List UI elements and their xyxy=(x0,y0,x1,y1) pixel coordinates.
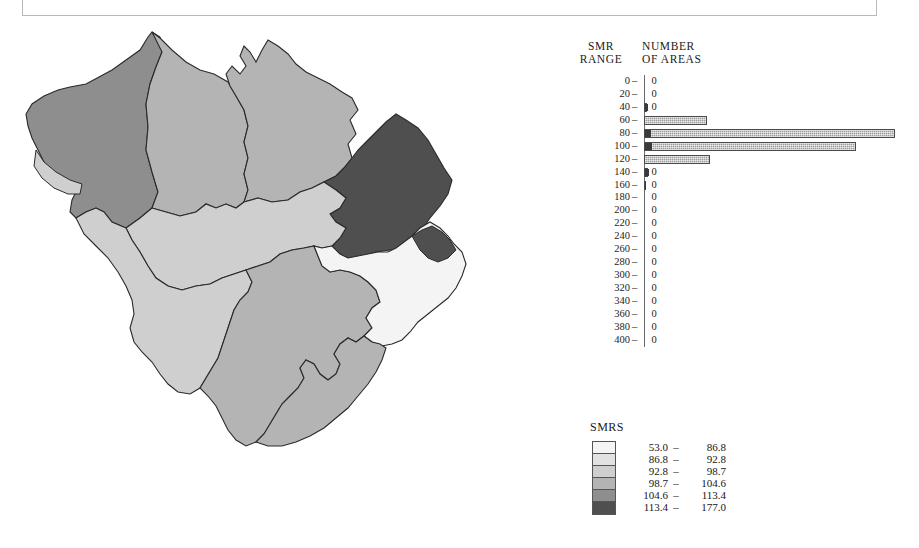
histogram-range-dash: – xyxy=(632,140,637,153)
histogram-bar-dark-segment xyxy=(645,169,649,176)
smrs-legend-swatch[interactable] xyxy=(593,442,615,454)
smrs-legend-row: 86.8–92.8 xyxy=(626,453,820,465)
histogram-bar[interactable] xyxy=(644,181,646,190)
histogram-title-smr: SMR xyxy=(560,40,642,53)
smrs-legend-separator: – xyxy=(668,465,684,477)
smrs-legend-row: 98.7–104.6 xyxy=(626,477,820,489)
histogram-row: 180–0 xyxy=(560,191,919,204)
histogram-range-dash: – xyxy=(632,243,637,256)
histogram-range-label: 180 xyxy=(560,191,630,204)
histogram-count-value: 0 xyxy=(646,308,662,321)
histogram-row: 0–0 xyxy=(560,75,919,88)
histogram-range-dash: – xyxy=(632,114,637,127)
histogram-count-value: 0 xyxy=(646,191,662,204)
histogram-range-label: 240 xyxy=(560,230,630,243)
histogram-range-label: 80 xyxy=(560,127,630,140)
histogram-row: 360–0 xyxy=(560,308,919,321)
histogram-range-dash: – xyxy=(632,217,637,230)
histogram-row: 20–0 xyxy=(560,88,919,101)
histogram-bar[interactable] xyxy=(644,142,856,151)
histogram-bar-fill-segment xyxy=(651,130,894,137)
histogram-row: 160–0 xyxy=(560,179,919,192)
histogram-range-dash: – xyxy=(632,191,637,204)
histogram-range-label: 140 xyxy=(560,166,630,179)
map-region-west-vlaanderen[interactable] xyxy=(26,32,162,228)
histogram-range-dash: – xyxy=(632,295,637,308)
histogram-range-label: 60 xyxy=(560,114,630,127)
smrs-legend-low: 104.6 xyxy=(626,489,668,501)
histogram-bar-fill-segment xyxy=(652,143,855,150)
histogram-bar[interactable] xyxy=(644,168,648,177)
histogram-row: 80–4 xyxy=(560,127,919,140)
histogram-range-dash: – xyxy=(632,127,637,140)
histogram-count-value: 0 xyxy=(646,88,662,101)
histogram-bar-fill-segment xyxy=(645,117,706,124)
histogram-range-dash: – xyxy=(632,204,637,217)
histogram-count-value: 0 xyxy=(646,282,662,295)
histogram-count-value: 0 xyxy=(646,269,662,282)
histogram-range-label: 300 xyxy=(560,269,630,282)
smrs-legend-low: 113.4 xyxy=(626,501,668,513)
histogram-range-label: 340 xyxy=(560,295,630,308)
smrs-legend-separator: – xyxy=(668,477,684,489)
histogram-row: 60–0 xyxy=(560,114,919,127)
histogram-bar[interactable] xyxy=(644,129,895,138)
histogram-range-dash: – xyxy=(632,101,637,114)
belgium-map xyxy=(0,22,545,452)
smrs-legend-swatch[interactable] xyxy=(593,478,615,490)
smrs-legend-separator: – xyxy=(668,453,684,465)
histogram-range-label: 0 xyxy=(560,75,630,88)
histogram-range-dash: – xyxy=(632,230,637,243)
histogram-count-value: 0 xyxy=(646,243,662,256)
histogram-row: 140–0 xyxy=(560,166,919,179)
histogram-row: 340–0 xyxy=(560,295,919,308)
smrs-legend-high: 177.0 xyxy=(684,501,726,513)
histogram-row: 240–0 xyxy=(560,230,919,243)
histogram-range-label: 20 xyxy=(560,88,630,101)
smrs-legend-low: 86.8 xyxy=(626,453,668,465)
map-region-oost-vlaanderen[interactable] xyxy=(146,32,248,216)
histogram-count-value: 0 xyxy=(646,101,662,114)
smrs-legend-low: 53.0 xyxy=(626,441,668,453)
histogram-axis-title-smr-range: SMR RANGE xyxy=(560,40,642,66)
histogram-count-value: 0 xyxy=(646,179,662,192)
histogram-range-label: 400 xyxy=(560,334,630,347)
histogram-range-label: 220 xyxy=(560,217,630,230)
figure-page: SELECTED MAP OF STANDARDISED MORTALITY R… xyxy=(0,0,919,548)
histogram-bar[interactable] xyxy=(644,103,647,112)
smrs-legend-swatch[interactable] xyxy=(593,490,615,502)
histogram-range-dash: – xyxy=(632,308,637,321)
histogram-count-value: 0 xyxy=(646,75,662,88)
histogram-row: 220–0 xyxy=(560,217,919,230)
histogram-range-dash: – xyxy=(632,256,637,269)
histogram-row: 320–0 xyxy=(560,282,919,295)
smrs-legend-swatch[interactable] xyxy=(593,454,615,466)
smrs-legend-low: 98.7 xyxy=(626,477,668,489)
histogram-row: 260–0 xyxy=(560,243,919,256)
histogram-bar-dark-segment xyxy=(645,104,648,111)
smrs-legend: SMRS 53.0–86.886.8–92.892.8–98.798.7–104… xyxy=(590,420,820,513)
smrs-legend-high: 92.8 xyxy=(684,453,726,465)
histogram-range-label: 40 xyxy=(560,101,630,114)
histogram-count-value: 0 xyxy=(646,217,662,230)
smrs-legend-swatch[interactable] xyxy=(593,466,615,478)
smrs-legend-swatch[interactable] xyxy=(593,502,615,514)
histogram-axis-title-number-of-areas: NUMBER OF AREAS xyxy=(642,40,752,66)
histogram-count-value: 0 xyxy=(646,230,662,243)
histogram-row: 120–0 xyxy=(560,153,919,166)
histogram-title-range: RANGE xyxy=(560,53,642,66)
smrs-legend-row: 53.0–86.8 xyxy=(626,441,820,453)
histogram-bar[interactable] xyxy=(644,155,710,164)
histogram-title-number: NUMBER xyxy=(642,40,752,53)
smrs-legend-labels: 53.0–86.886.8–92.892.8–98.798.7–104.6104… xyxy=(626,441,820,513)
histogram-range-dash: – xyxy=(632,166,637,179)
histogram-range-label: 200 xyxy=(560,204,630,217)
smrs-legend-row: 104.6–113.4 xyxy=(626,489,820,501)
histogram-range-label: 160 xyxy=(560,179,630,192)
smrs-legend-row: 92.8–98.7 xyxy=(626,465,820,477)
histogram-row: 40–0 xyxy=(560,101,919,114)
histogram-range-dash: – xyxy=(632,88,637,101)
histogram-bar[interactable] xyxy=(644,116,707,125)
histogram-row: 200–0 xyxy=(560,204,919,217)
histogram-range-dash: – xyxy=(632,153,637,166)
